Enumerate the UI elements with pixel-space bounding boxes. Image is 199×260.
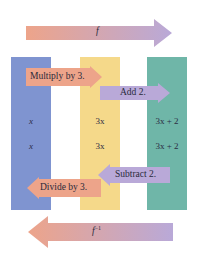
intermediate-value: 3x <box>96 116 105 126</box>
subtract-2-arrow: Subtract 2. <box>98 164 170 186</box>
output-column <box>147 57 187 210</box>
output-value: 3x + 2 <box>155 116 178 126</box>
output-value: 3x + 2 <box>155 141 178 151</box>
add-2-label: Add 2. <box>120 87 146 97</box>
input-value: x <box>29 116 33 126</box>
input-value: x <box>29 141 33 151</box>
divide-by-3-label: Divide by 3. <box>40 182 87 192</box>
f-inverse-label: f−1 <box>92 225 101 236</box>
multiply-by-3-arrow: Multiply by 3. <box>26 66 102 88</box>
f-label: f <box>96 26 99 36</box>
add-2-arrow: Add 2. <box>100 83 170 103</box>
right-arrow-icon <box>26 19 172 47</box>
f-inverse-superscript: −1 <box>95 225 101 231</box>
subtract-2-label: Subtract 2. <box>115 169 156 179</box>
function-f-arrow: f <box>26 19 172 47</box>
inverse-function-arrow: f−1 <box>28 216 173 248</box>
divide-by-3-arrow: Divide by 3. <box>27 177 101 199</box>
multiply-by-3-label: Multiply by 3. <box>30 71 85 81</box>
intermediate-value: 3x <box>96 141 105 151</box>
